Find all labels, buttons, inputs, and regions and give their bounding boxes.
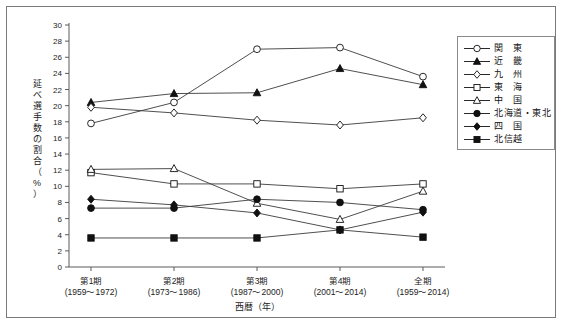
- data-point-marker: [254, 181, 260, 187]
- y-tick-label: 18: [53, 118, 62, 127]
- data-point-marker: [88, 120, 95, 127]
- data-point-marker: [254, 209, 261, 217]
- data-point-marker: [170, 90, 178, 97]
- x-tick-sublabel: (1987～2000): [231, 287, 284, 297]
- y-tick-label: 30: [53, 21, 62, 30]
- legend-marker-icon: [462, 80, 492, 93]
- data-point-marker: [420, 114, 427, 122]
- x-tick-sublabel: (1973～1986): [148, 287, 201, 297]
- data-point-marker: [419, 187, 427, 194]
- data-point-marker: [336, 65, 344, 72]
- data-point-marker: [337, 44, 344, 51]
- legend-item[interactable]: 関 東: [462, 41, 550, 54]
- x-tick-label: 第3期: [246, 276, 269, 286]
- y-tick-label: 28: [53, 37, 62, 46]
- legend-item-label: 中 国: [492, 93, 523, 106]
- data-point-marker: [337, 121, 344, 129]
- legend-marker-icon: [462, 54, 492, 67]
- data-point-marker: [254, 116, 261, 124]
- data-point-marker: [171, 235, 177, 241]
- x-tick-label: 第2期: [163, 276, 186, 286]
- data-point-marker: [88, 235, 94, 241]
- x-tick-sublabel: (2001～2014): [314, 287, 367, 297]
- series-line: [91, 48, 423, 124]
- data-point-marker: [337, 227, 343, 233]
- series-line: [91, 69, 423, 103]
- legend-item-label: 北海道・東北: [492, 106, 551, 119]
- legend-marker-icon: [462, 106, 492, 119]
- legend-item-label: 九 州: [492, 67, 523, 80]
- data-point-marker: [171, 181, 177, 187]
- data-point-marker: [420, 73, 427, 80]
- x-tick-label: 第1期: [80, 276, 103, 286]
- legend-item[interactable]: 東 海: [462, 80, 550, 93]
- y-tick-label: 2: [58, 247, 63, 256]
- legend-item[interactable]: 四 国: [462, 119, 550, 132]
- data-point-marker: [337, 199, 344, 206]
- data-point-marker: [171, 99, 178, 106]
- chart-figure: 延べ選手数の割合（%） 024681012141618202224262830第…: [0, 0, 564, 326]
- x-axis-title: 西暦（年）: [235, 301, 280, 312]
- y-tick-label: 4: [58, 231, 63, 240]
- data-point-marker: [171, 109, 178, 117]
- data-point-marker: [420, 181, 426, 187]
- legend-item[interactable]: 北海道・東北: [462, 106, 550, 119]
- y-tick-label: 12: [53, 166, 62, 175]
- legend-item-label: 関 東: [492, 41, 523, 54]
- legend-item-label: 近 畿: [492, 54, 523, 67]
- y-tick-label: 14: [53, 150, 62, 159]
- legend-item[interactable]: 中 国: [462, 93, 550, 106]
- y-tick-label: 10: [53, 182, 62, 191]
- x-tick-sublabel: (1959～2014): [397, 287, 450, 297]
- legend-marker-icon: [462, 93, 492, 106]
- legend-item-label: 北信越: [492, 132, 523, 145]
- legend-item-label: 四 国: [492, 119, 523, 132]
- data-point-marker: [254, 235, 260, 241]
- data-point-marker: [87, 165, 95, 172]
- legend-item[interactable]: 近 畿: [462, 54, 550, 67]
- y-tick-label: 6: [58, 215, 63, 224]
- data-point-marker: [170, 165, 178, 172]
- y-tick-label: 24: [53, 69, 62, 78]
- legend-marker-icon: [462, 67, 492, 80]
- legend-item[interactable]: 九 州: [462, 67, 550, 80]
- y-tick-label: 20: [53, 102, 62, 111]
- x-tick-label: 全期: [414, 276, 432, 286]
- data-point-marker: [337, 186, 343, 192]
- legend-item-label: 東 海: [492, 80, 523, 93]
- y-tick-label: 8: [58, 198, 63, 207]
- y-tick-label: 16: [53, 134, 62, 143]
- y-tick-label: 26: [53, 53, 62, 62]
- data-point-marker: [254, 46, 261, 53]
- data-point-marker: [254, 196, 261, 203]
- chart-legend: 関 東近 畿九 州東 海中 国北海道・東北四 国北信越: [457, 36, 555, 150]
- y-tick-label: 0: [58, 263, 63, 272]
- x-tick-sublabel: (1959～1972): [65, 287, 118, 297]
- x-tick-label: 第4期: [329, 276, 352, 286]
- data-point-marker: [420, 234, 426, 240]
- legend-item[interactable]: 北信越: [462, 132, 550, 145]
- legend-marker-icon: [462, 119, 492, 132]
- legend-marker-icon: [462, 132, 492, 145]
- data-point-marker: [88, 205, 95, 212]
- legend-marker-icon: [462, 41, 492, 54]
- data-point-marker: [88, 195, 95, 203]
- y-tick-label: 22: [53, 86, 62, 95]
- chart-frame: 延べ選手数の割合（%） 024681012141618202224262830第…: [6, 6, 556, 318]
